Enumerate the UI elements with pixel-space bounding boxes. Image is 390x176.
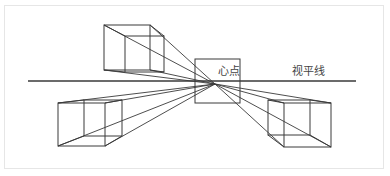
bottom-left-cube-front-face xyxy=(58,103,105,146)
bottom-left-cube-back-face xyxy=(84,100,122,136)
horizon-line-label: 视平线 xyxy=(292,66,325,77)
one-point-perspective-diagram xyxy=(0,0,390,176)
bottom-right-cube-back-face xyxy=(268,100,310,135)
top-left-cube-front-face xyxy=(104,25,150,70)
vanishing-point-label: 心点 xyxy=(218,66,240,77)
